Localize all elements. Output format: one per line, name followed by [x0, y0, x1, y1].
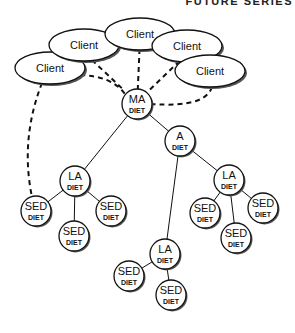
node-sed5: SEDDIET	[248, 193, 280, 225]
client-layer: ClientClientClientClientClient	[15, 18, 247, 89]
node-sed8: SEDDIET	[156, 280, 188, 312]
node-a: ADIET	[165, 126, 197, 158]
node-ma: MADIET	[122, 89, 154, 121]
node-role-label: SED	[225, 227, 248, 239]
dashed-connection-c3-ma	[138, 49, 140, 90]
node-sed1: SEDDIET	[21, 196, 53, 228]
client-label: Client	[36, 62, 64, 74]
node-diet-label: DIET	[255, 211, 272, 218]
node-role-label: LA	[158, 243, 172, 255]
node-role-label: A	[176, 130, 184, 142]
node-sed4: SEDDIET	[190, 198, 222, 230]
node-diet-label: DIET	[28, 214, 45, 221]
node-sed6: SEDDIET	[221, 223, 253, 255]
dashed-connection-c1-ma	[80, 75, 125, 94]
node-diet-label: DIET	[163, 298, 180, 305]
node-diet-label: DIET	[103, 214, 120, 221]
node-diet-label: DIET	[67, 184, 84, 191]
node-diet-label: DIET	[157, 257, 174, 264]
node-role-label: SED	[194, 202, 217, 214]
dashed-connection-c5-ma	[152, 87, 212, 105]
node-la3: LADIET	[150, 239, 182, 271]
node-diet-label: DIET	[121, 279, 138, 286]
node-role-label: LA	[222, 169, 236, 181]
node-role-label: SED	[63, 225, 86, 237]
dashed-connection-c4-ma	[150, 61, 180, 90]
client-c5: Client	[175, 55, 247, 89]
node-sed2: SEDDIET	[96, 196, 128, 228]
node-sed7: SEDDIET	[114, 261, 146, 293]
client-label: Client	[173, 40, 201, 52]
node-role-label: SED	[160, 284, 183, 296]
node-diet-label: DIET	[129, 107, 146, 114]
dashed-connection-c1-sed1	[28, 83, 42, 197]
node-la2: LADIET	[214, 165, 246, 197]
node-role-label: LA	[68, 170, 82, 182]
edge-a-la3	[165, 141, 180, 254]
client-label: Client	[126, 28, 154, 40]
node-sed3: SEDDIET	[59, 221, 91, 253]
node-role-label: SED	[25, 200, 48, 212]
node-role-label: SED	[118, 265, 141, 277]
dashed-connection-c2-ma	[92, 60, 124, 90]
node-layer: MADIETADIETLADIETLADIETLADIETSEDDIETSEDD…	[21, 89, 280, 312]
node-diet-label: DIET	[66, 239, 83, 246]
network-diagram: ClientClientClientClientClient MADIETADI…	[0, 0, 295, 333]
client-label: Client	[70, 39, 98, 51]
node-role-label: MA	[129, 93, 146, 105]
client-label: Client	[196, 65, 224, 77]
tree-edge-layer	[36, 104, 263, 295]
node-role-label: SED	[252, 197, 275, 209]
node-la1: LADIET	[60, 166, 92, 198]
node-role-label: SED	[100, 200, 123, 212]
node-diet-label: DIET	[172, 144, 189, 151]
node-diet-label: DIET	[221, 183, 238, 190]
node-diet-label: DIET	[228, 241, 245, 248]
node-diet-label: DIET	[197, 216, 214, 223]
